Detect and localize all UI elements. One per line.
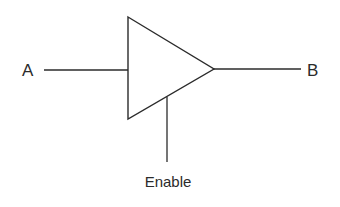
buffer-triangle: [128, 17, 214, 119]
output-label: B: [307, 61, 318, 80]
diagram-canvas: A B Enable: [0, 0, 340, 207]
enable-label: Enable: [145, 173, 192, 190]
buffer-diagram: A B Enable: [0, 0, 340, 207]
input-label: A: [22, 61, 34, 80]
